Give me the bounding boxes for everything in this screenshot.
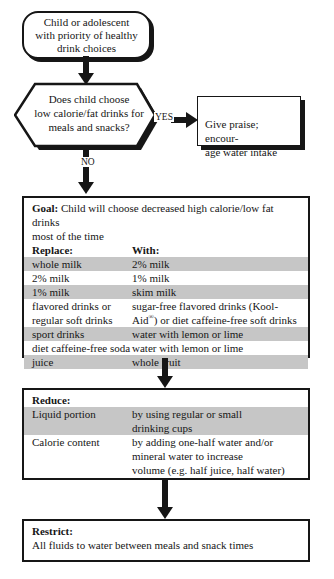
replace-cell: 2% milk (24, 271, 132, 285)
start-node-text: Child or adolescent with priority of hea… (35, 16, 137, 55)
restrict-heading: Restrict: (24, 521, 308, 538)
arrow-down-icon (78, 182, 94, 194)
goal-table-row: flavored drinks or regular soft drinks s… (24, 299, 308, 327)
reduce-method-cell: by adding one-half water and/or mineral … (132, 435, 308, 477)
arrow-down-icon (162, 358, 168, 377)
restrict-box: Restrict: All fluids to water between me… (22, 519, 310, 562)
replace-cell: diet caffeine-free soda (24, 341, 132, 355)
with-cell: water with lemon or lime (132, 327, 308, 341)
goal-table-row: whole milk 2% milk (24, 257, 308, 271)
with-column-header: With: (132, 243, 308, 257)
replace-cell: whole milk (24, 257, 132, 271)
goal-heading-rest: Child will choose decreased high calorie… (32, 202, 274, 242)
reduce-item-cell: Liquid portion (24, 407, 132, 435)
start-node: Child or adolescent with priority of hea… (22, 11, 151, 59)
arrow-down-icon (157, 507, 173, 519)
no-label: NO (80, 157, 96, 167)
goal-table-row: sport drinks water with lemon or lime (24, 327, 308, 341)
reduce-box: Reduce: Liquid portion by using regular … (22, 388, 310, 480)
reduce-table-row: Liquid portion by using regular or small… (24, 407, 308, 435)
with-cell-text: ) or diet caffeine-free soft drinks (154, 314, 297, 326)
replace-cell: sport drinks (24, 327, 132, 341)
restrict-text: All fluids to water between meals and sn… (24, 538, 308, 552)
with-cell: whole fruit (132, 355, 308, 369)
replace-cell: juice (24, 355, 132, 369)
goal-table-row: 2% milk 1% milk (24, 271, 308, 285)
replace-cell: 1% milk (24, 285, 132, 299)
yes-label: YES (154, 112, 174, 122)
praise-node-text: Give praise; encour- age water intake (205, 118, 277, 158)
with-cell: 2% milk (132, 257, 308, 271)
flowchart-canvas: Child or adolescent with priority of hea… (0, 0, 334, 579)
reduce-method-cell: by using regular or small drinking cups (132, 407, 308, 435)
reduce-heading: Reduce: (24, 390, 308, 407)
goal-box: Goal: Child will choose decreased high c… (22, 196, 310, 358)
replace-column-header: Replace: (24, 243, 132, 257)
praise-node: Give praise; encour- age water intake (197, 96, 301, 146)
reduce-table-row: Calorie content by adding one-half water… (24, 435, 308, 477)
with-cell: water with lemon or lime (132, 341, 308, 355)
replace-cell: flavored drinks or regular soft drinks (24, 299, 132, 327)
arrow-down-icon (162, 480, 168, 508)
goal-table-header: Replace: With: (24, 243, 308, 257)
goal-heading-bold: Goal: (32, 202, 58, 214)
arrow-down-icon (157, 376, 173, 388)
with-cell: sugar-free flavored drinks (Kool- Aid®) … (132, 299, 308, 327)
with-cell: 1% milk (132, 271, 308, 285)
with-cell: skim milk (132, 285, 308, 299)
goal-table-row: diet caffeine-free soda water with lemon… (24, 341, 308, 355)
goal-table-row: 1% milk skim milk (24, 285, 308, 299)
reduce-item-cell: Calorie content (24, 435, 132, 477)
decision-node-text: Does child choose low calorie/fat drinks… (28, 92, 150, 134)
goal-heading: Goal: Child will choose decreased high c… (24, 198, 308, 243)
decision-node: Does child choose low calorie/fat drinks… (14, 82, 164, 152)
